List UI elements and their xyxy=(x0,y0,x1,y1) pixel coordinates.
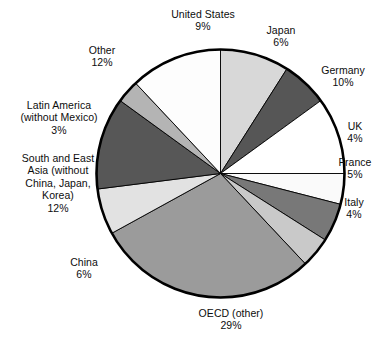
slice-label-name: UK xyxy=(337,120,373,132)
slice-label-japan: Japan 6% xyxy=(252,24,310,49)
slice-label-name: Other xyxy=(74,44,130,56)
slice-label-united-states: United States 9% xyxy=(155,8,251,33)
slice-label-percent: 4% xyxy=(330,208,378,220)
slice-label-latin-america: Latin America (without Mexico) 3% xyxy=(4,99,114,136)
slice-label-name: France xyxy=(324,156,386,168)
slice-label-name: United States xyxy=(155,8,251,20)
slice-label-uk: UK 4% xyxy=(337,120,373,145)
slice-label-line3: China, Japan, xyxy=(4,177,112,189)
slice-label-percent: 9% xyxy=(155,20,251,32)
slice-label-oecd-other: OECD (other) 29% xyxy=(173,307,289,332)
pie-chart: United States 9% Japan 6% Germany 10% UK… xyxy=(0,0,392,349)
slice-label-south-and-east-asia: South and East Asia (without China, Japa… xyxy=(4,152,112,214)
slice-label-line1: South and East xyxy=(4,152,112,164)
slice-label-line2: Asia (without xyxy=(4,164,112,176)
slice-label-percent: 6% xyxy=(252,36,310,48)
slice-label-percent: 6% xyxy=(54,268,114,280)
slice-label-percent: 10% xyxy=(306,76,380,88)
slice-label-name: Japan xyxy=(252,24,310,36)
slice-label-line1: Latin America xyxy=(4,99,114,111)
slice-label-china: China 6% xyxy=(54,256,114,281)
slice-label-percent: 12% xyxy=(4,202,112,214)
slice-label-line4: Korea) xyxy=(4,189,112,201)
slice-label-line2: (without Mexico) xyxy=(4,111,114,123)
slice-label-percent: 4% xyxy=(337,132,373,144)
slice-label-name: China xyxy=(54,256,114,268)
slice-label-name: Germany xyxy=(306,64,380,76)
slice-label-name: Italy xyxy=(330,196,378,208)
slice-label-other: Other 12% xyxy=(74,44,130,69)
slice-label-name: OECD (other) xyxy=(173,307,289,319)
slice-label-percent: 12% xyxy=(74,56,130,68)
slice-label-percent: 29% xyxy=(173,319,289,331)
slice-label-percent: 5% xyxy=(324,168,386,180)
slice-label-germany: Germany 10% xyxy=(306,64,380,89)
slice-label-france: France 5% xyxy=(324,156,386,181)
slice-label-italy: Italy 4% xyxy=(330,196,378,221)
slice-label-percent: 3% xyxy=(4,124,114,136)
